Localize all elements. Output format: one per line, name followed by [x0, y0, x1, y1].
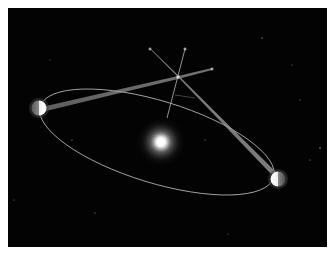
sight-line-sun — [167, 49, 185, 118]
background-stars — [148, 47, 215, 72]
sight-line-left-earth — [46, 68, 212, 111]
reflection-segment — [175, 95, 195, 98]
background-star-3 — [210, 67, 215, 72]
parallax-diagram — [0, 0, 335, 259]
sun — [158, 139, 165, 146]
earth-left — [29, 98, 49, 118]
nearby-star — [175, 74, 181, 80]
background-star-1 — [148, 47, 153, 52]
background-star-2 — [183, 47, 188, 52]
earth-right — [268, 169, 288, 189]
